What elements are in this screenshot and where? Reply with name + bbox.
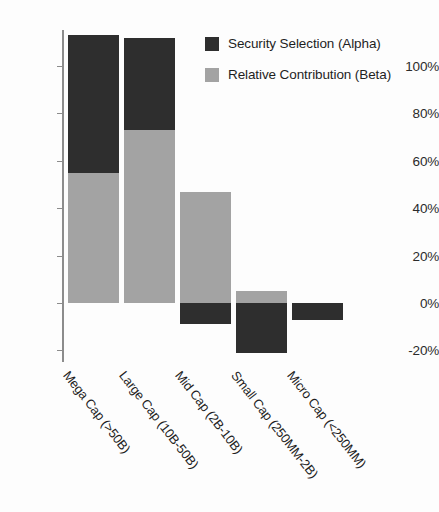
y-axis-line bbox=[62, 30, 64, 362]
bar-segment-alpha[interactable] bbox=[292, 303, 343, 320]
bar-segment-alpha[interactable] bbox=[124, 38, 175, 130]
legend-label-beta: Relative Contribution (Beta) bbox=[228, 67, 391, 82]
bar-segment-beta[interactable] bbox=[180, 192, 231, 303]
bar-segment-alpha[interactable] bbox=[180, 303, 231, 324]
bar-segment-beta[interactable] bbox=[124, 130, 175, 303]
bar-segment-beta[interactable] bbox=[68, 173, 119, 303]
y-tick-label-40: 40% bbox=[381, 201, 439, 216]
legend-label-alpha: Security Selection (Alpha) bbox=[228, 36, 381, 51]
chart-legend: Security Selection (Alpha) Relative Cont… bbox=[205, 36, 391, 98]
y-tick-mark bbox=[57, 208, 62, 209]
y-tick-mark bbox=[57, 113, 62, 114]
y-tick-mark bbox=[57, 256, 62, 257]
y-tick-mark bbox=[57, 303, 62, 304]
y-tick-mark bbox=[57, 161, 62, 162]
bar-segment-alpha[interactable] bbox=[236, 303, 287, 353]
stacked-bar-chart: 100% 80% 60% 40% 20% 0% -20% Security Se… bbox=[0, 0, 439, 512]
y-tick-label-80: 80% bbox=[381, 106, 439, 121]
y-tick-label-0: 0% bbox=[381, 296, 439, 311]
legend-swatch-beta-icon bbox=[205, 68, 219, 82]
y-tick-mark bbox=[57, 66, 62, 67]
y-tick-label-20: 20% bbox=[381, 249, 439, 264]
y-tick-label-60: 60% bbox=[381, 154, 439, 169]
legend-item-alpha[interactable]: Security Selection (Alpha) bbox=[205, 36, 391, 51]
y-tick-label-neg20: -20% bbox=[381, 343, 439, 358]
bar-segment-alpha[interactable] bbox=[68, 35, 119, 172]
y-tick-mark bbox=[57, 350, 62, 351]
bar-segment-beta[interactable] bbox=[236, 291, 287, 303]
legend-swatch-alpha-icon bbox=[205, 37, 219, 51]
legend-item-beta[interactable]: Relative Contribution (Beta) bbox=[205, 67, 391, 82]
